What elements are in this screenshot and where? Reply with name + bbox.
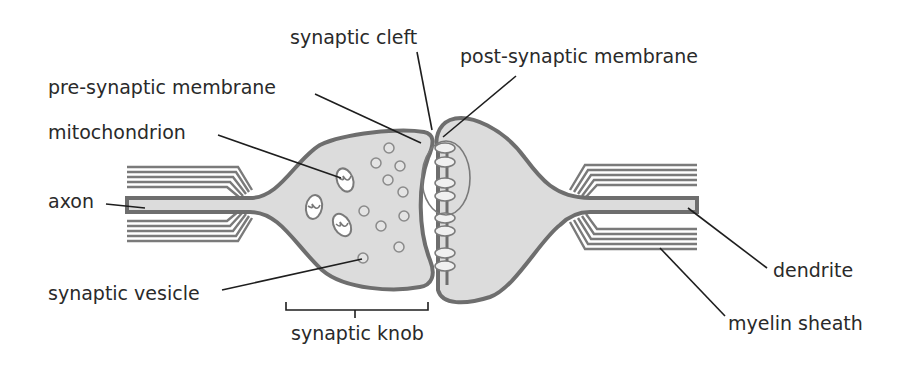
svg-text:mitochondrion: mitochondrion: [48, 121, 186, 143]
svg-text:pre-synaptic membrane: pre-synaptic membrane: [48, 76, 276, 98]
axon-and-synaptic-knob: [127, 131, 433, 290]
dendrite-and-post-synaptic-cell: [437, 118, 698, 302]
svg-text:myelin sheath: myelin sheath: [728, 312, 863, 334]
svg-text:synaptic cleft: synaptic cleft: [290, 26, 417, 48]
svg-text:axon: axon: [48, 190, 94, 212]
svg-text:synaptic knob: synaptic knob: [291, 322, 424, 344]
label-dendrite: dendrite: [688, 208, 853, 281]
label-synaptic-knob: synaptic knob: [286, 302, 428, 344]
svg-text:dendrite: dendrite: [773, 259, 853, 281]
svg-text:post-synaptic membrane: post-synaptic membrane: [460, 45, 698, 67]
svg-text:synaptic vesicle: synaptic vesicle: [48, 282, 200, 304]
synapse-diagram: synaptic cleft post-synaptic membrane pr…: [0, 0, 924, 365]
